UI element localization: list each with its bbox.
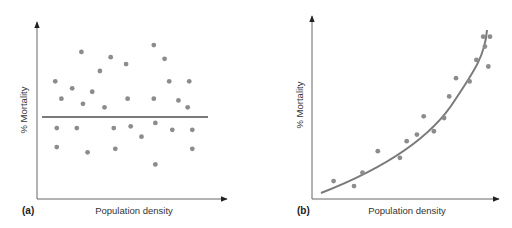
chart-a: % Mortality Population density (a) xyxy=(18,22,227,216)
data-point xyxy=(185,105,190,110)
data-point xyxy=(108,55,113,60)
data-point xyxy=(81,101,86,106)
data-point xyxy=(139,134,144,139)
data-point xyxy=(153,120,158,125)
chart-a-points xyxy=(53,43,195,167)
chart-b-x-label: Population density xyxy=(368,205,446,216)
data-point xyxy=(151,43,156,48)
data-point xyxy=(176,98,181,103)
data-point xyxy=(190,146,195,151)
data-point xyxy=(125,96,130,101)
data-point xyxy=(474,57,479,62)
data-point xyxy=(85,150,90,155)
data-point xyxy=(98,69,103,74)
chart-b-trend-curve xyxy=(321,30,487,193)
data-point xyxy=(486,64,491,69)
figure-canvas: % Mortality Population density (a) % Mor… xyxy=(0,0,512,228)
data-point xyxy=(162,56,167,61)
data-point xyxy=(128,124,133,129)
data-point xyxy=(170,127,175,132)
data-point xyxy=(467,79,472,84)
data-point xyxy=(74,126,79,131)
data-point xyxy=(483,44,488,49)
chart-b-y-label: % Mortality xyxy=(294,81,305,128)
data-point xyxy=(447,94,452,99)
data-point xyxy=(54,145,59,150)
data-point xyxy=(151,96,156,101)
data-point xyxy=(53,79,58,84)
data-point xyxy=(70,86,75,91)
chart-a-y-label: % Mortality xyxy=(18,86,29,133)
data-point xyxy=(404,139,409,144)
data-point xyxy=(111,126,116,131)
chart-b-panel-label: (b) xyxy=(297,205,310,216)
data-point xyxy=(153,162,158,167)
data-point xyxy=(421,114,426,119)
chart-a-x-label: Population density xyxy=(95,205,173,216)
data-point xyxy=(442,116,447,121)
data-point xyxy=(59,96,64,101)
data-point xyxy=(360,170,365,175)
data-point xyxy=(398,155,403,160)
data-point xyxy=(375,149,380,154)
data-point xyxy=(481,34,486,39)
chart-b-points xyxy=(331,34,492,188)
data-point xyxy=(79,50,84,55)
chart-a-panel-label: (a) xyxy=(22,205,34,216)
data-point xyxy=(432,129,437,134)
data-point xyxy=(352,184,357,189)
chart-b: % Mortality Population density (b) xyxy=(294,16,499,216)
data-point xyxy=(454,76,459,81)
data-point xyxy=(190,127,195,132)
data-point xyxy=(167,79,172,84)
data-point xyxy=(102,105,107,110)
data-point xyxy=(331,179,336,184)
data-point xyxy=(187,79,192,84)
data-point xyxy=(488,34,493,39)
data-point xyxy=(54,126,59,131)
data-point xyxy=(90,89,95,94)
data-point xyxy=(124,62,129,67)
data-point xyxy=(415,132,420,137)
data-point xyxy=(113,146,118,151)
